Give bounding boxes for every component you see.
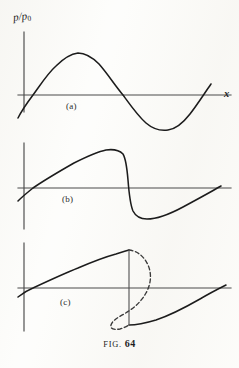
figure-caption-prefix: FIG.	[103, 340, 121, 349]
y-axis-label: p/p0	[12, 9, 31, 25]
panel-c-upper-branch	[18, 250, 129, 297]
figure-caption: FIG. 64	[0, 338, 239, 349]
figure-plot-area	[0, 0, 239, 368]
y-axis-label-subscript: 0	[27, 14, 32, 23]
x-axis-label: x	[224, 88, 229, 99]
panel-a-sine-curve	[18, 53, 211, 130]
panel-b-steepened-curve	[18, 150, 221, 219]
panel-a-label: (a)	[66, 101, 77, 111]
panel-c-overturned-dashed-loop	[111, 250, 151, 329]
panel-b-label: (b)	[62, 194, 73, 204]
panel-b-group	[18, 143, 231, 229]
panel-c-group	[18, 243, 231, 331]
panel-c-lower-branch	[129, 285, 226, 325]
panel-a-group	[18, 32, 231, 130]
panel-c-label: (c)	[60, 297, 71, 307]
figure-page: p/p0 x (a) (b) (c) FIG. 64	[0, 0, 239, 368]
figure-caption-number: 64	[125, 338, 136, 349]
